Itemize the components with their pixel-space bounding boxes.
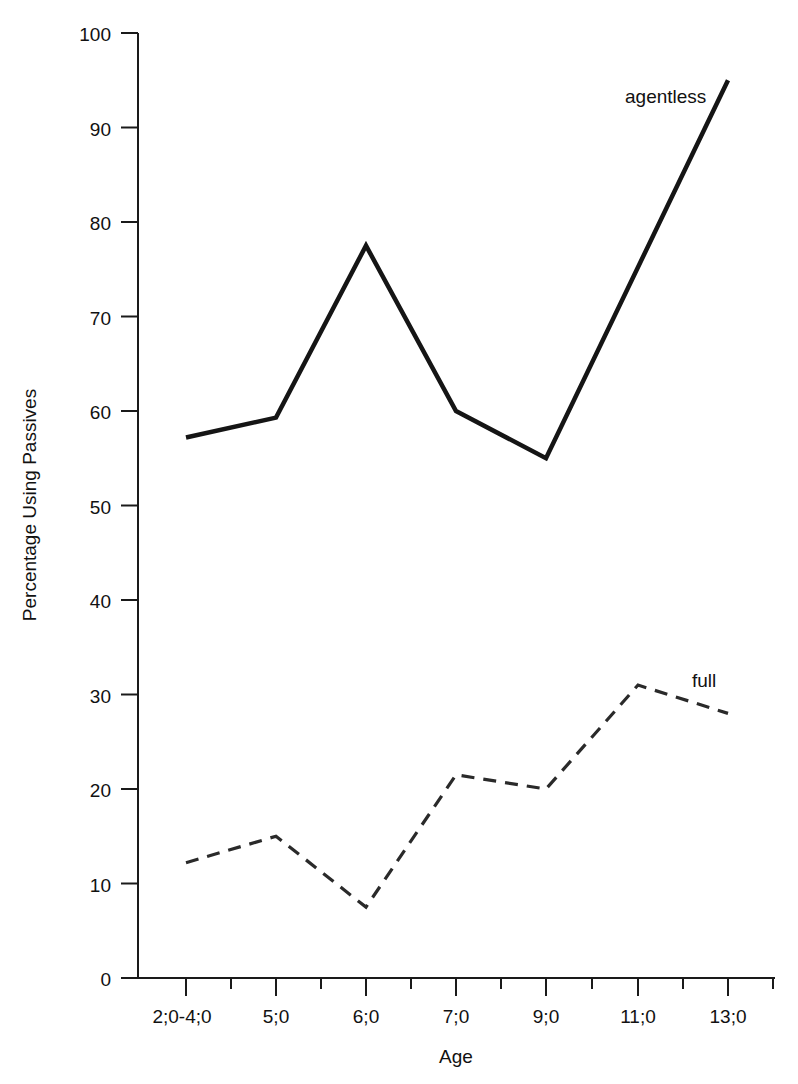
x-tick-label-6-0: 6;0 [353,1006,379,1027]
x-tick-label-9-0: 9;0 [533,1006,559,1027]
x-minor-tick-marks [231,978,773,989]
series-line-agentless [186,80,728,458]
y-tick-label-0: 0 [100,969,111,990]
y-tick-labels: 100 90 80 70 60 50 40 30 20 10 0 [79,24,111,990]
series-labels-group: agentless full [625,86,716,691]
line-chart-canvas: 100 90 80 70 60 50 40 30 20 10 0 Percent… [0,0,798,1084]
series-line-full [186,685,728,907]
x-axis-group: 2;0-4;0 5;0 6;0 7;0 9;0 11;0 13;0 Age [138,978,775,1067]
y-tick-label-100: 100 [79,24,111,45]
y-axis-group: 100 90 80 70 60 50 40 30 20 10 0 Percent… [19,24,138,990]
chart-figure: 100 90 80 70 60 50 40 30 20 10 0 Percent… [0,0,798,1084]
y-tick-label-10: 10 [90,875,111,896]
x-tick-label-11-0: 11;0 [620,1006,656,1027]
x-tick-label-2-0-4-0: 2;0-4;0 [152,1006,211,1027]
x-axis-title: Age [439,1046,473,1067]
series-label-agentless: agentless [625,86,706,107]
x-tick-label-5-0: 5;0 [263,1006,289,1027]
series-label-full: full [692,670,716,691]
y-tick-label-60: 60 [90,402,111,423]
y-axis-title: Percentage Using Passives [19,389,40,621]
data-series-group [186,80,728,907]
x-tick-label-7-0: 7;0 [443,1006,469,1027]
y-tick-label-30: 30 [90,686,111,707]
y-tick-marks [121,33,138,978]
y-tick-label-70: 70 [90,308,111,329]
y-tick-label-90: 90 [90,119,111,140]
x-tick-label-13-0: 13;0 [710,1006,747,1027]
y-tick-label-80: 80 [90,213,111,234]
x-tick-labels: 2;0-4;0 5;0 6;0 7;0 9;0 11;0 13;0 [152,1006,746,1027]
y-tick-label-50: 50 [90,497,111,518]
y-tick-label-40: 40 [90,591,111,612]
x-major-tick-marks [186,978,728,996]
y-tick-label-20: 20 [90,780,111,801]
